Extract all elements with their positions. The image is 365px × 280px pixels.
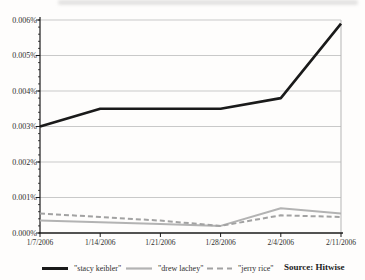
- y-tick-label: 0.000%: [0, 229, 37, 238]
- y-tick-label: 0.003%: [0, 122, 37, 131]
- x-tick-label: 1/14/2006: [77, 238, 123, 247]
- solid-gray-line-swatch: [126, 266, 152, 271]
- series-line-stacy-keibler: [40, 24, 341, 127]
- legend-label: "jerry rice": [238, 264, 274, 273]
- legend-label: "stacy keibler": [74, 264, 121, 273]
- x-tick-label: 1/21/2006: [137, 238, 183, 247]
- source-credit: Source: Hitwise: [284, 262, 345, 272]
- x-tick-label: 2/4/2006: [258, 238, 304, 247]
- y-tick-label: 0.006%: [0, 16, 37, 25]
- y-tick-label: 0.005%: [0, 51, 37, 60]
- y-tick-label: 0.002%: [0, 158, 37, 167]
- series-line-drew-lachey: [40, 208, 341, 226]
- solid-black-line-swatch: [42, 266, 68, 271]
- y-tick-label: 0.001%: [0, 193, 37, 202]
- x-tick-label: 2/11/2006: [318, 238, 364, 247]
- y-tick-label: 0.004%: [0, 87, 37, 96]
- dashed-gray-line-swatch: [207, 266, 232, 271]
- legend-item-jerry-rice: "jerry rice": [207, 262, 274, 274]
- search-share-line-chart: 0.000%0.001%0.002%0.003%0.004%0.005%0.00…: [0, 0, 365, 280]
- legend-item-drew-lachey: "drew lachey": [126, 262, 203, 274]
- x-tick-label: 1/28/2006: [198, 238, 244, 247]
- legend-label: "drew lachey": [158, 264, 203, 273]
- legend: "stacy keibler" "drew lachey" "jerry ric…: [0, 262, 365, 276]
- legend-item-stacy-keibler: "stacy keibler": [42, 262, 121, 274]
- x-tick-label: 1/7/2006: [17, 238, 63, 247]
